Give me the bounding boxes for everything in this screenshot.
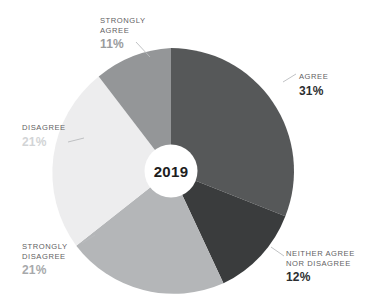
callout-strongly-disagree-line1: STRONGLY bbox=[22, 242, 68, 252]
callout-strongly-agree-line1: STRONGLY bbox=[100, 16, 146, 26]
callout-neither-line1: NEITHER AGREE bbox=[286, 249, 355, 259]
callout-strongly-disagree: STRONGLY DISAGREE 21% bbox=[22, 242, 68, 279]
callout-disagree-value: 21% bbox=[22, 135, 66, 150]
callout-strongly-agree-line2: AGREE bbox=[100, 26, 146, 36]
leader-line-agree bbox=[283, 74, 296, 82]
callout-strongly-disagree-line2: DISAGREE bbox=[22, 252, 68, 262]
callout-strongly-agree: STRONGLY AGREE 11% bbox=[100, 16, 146, 53]
callout-strongly-disagree-value: 21% bbox=[22, 263, 68, 278]
callout-neither-value: 12% bbox=[286, 270, 355, 285]
callout-strongly-agree-value: 11% bbox=[100, 37, 146, 52]
pie-chart: 2019 STRONGLY AGREE 11% AGREE 31% NEITHE… bbox=[0, 0, 367, 308]
callout-disagree-line1: DISAGREE bbox=[22, 123, 66, 133]
callout-agree-value: 31% bbox=[299, 84, 328, 99]
callout-neither-agree-nor-disagree: NEITHER AGREE NOR DISAGREE 12% bbox=[286, 249, 355, 286]
callout-neither-line2: NOR DISAGREE bbox=[286, 259, 355, 269]
donut-hole bbox=[145, 145, 198, 198]
callout-agree: AGREE 31% bbox=[299, 72, 328, 99]
leader-line-neither bbox=[271, 247, 284, 256]
callout-disagree: DISAGREE 21% bbox=[22, 123, 66, 150]
callout-agree-line1: AGREE bbox=[299, 72, 328, 82]
